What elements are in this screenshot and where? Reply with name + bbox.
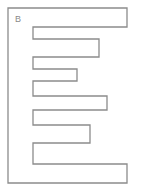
shape-label: B — [15, 14, 21, 24]
comb-shape-svg — [0, 0, 141, 184]
comb-shape-outline — [8, 8, 127, 183]
diagram-canvas: B — [0, 0, 141, 184]
